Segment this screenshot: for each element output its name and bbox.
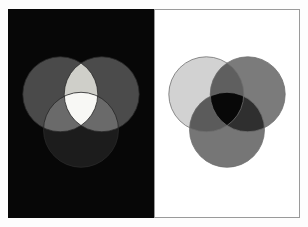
additive-mixing-panel	[8, 9, 154, 218]
subtractive-venn-diagram	[155, 10, 299, 217]
subtractive-mixing-panel	[154, 9, 300, 218]
colour-mixing-figure	[0, 0, 308, 227]
additive-venn-diagram	[9, 10, 153, 217]
